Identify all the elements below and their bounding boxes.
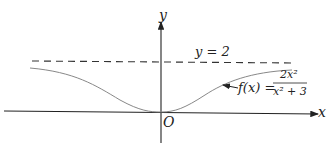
asymptote-label: y = 2 <box>195 45 230 58</box>
function-numerator: 2x² <box>280 69 298 80</box>
label-pointer-arrow <box>223 85 238 88</box>
y-axis-label: y <box>159 8 167 22</box>
function-lhs: f(x) = <box>238 81 275 94</box>
asymptote-line <box>32 61 296 63</box>
x-axis-label: x <box>318 105 326 119</box>
function-denominator: x² + 3 <box>273 86 307 97</box>
origin-label: O <box>163 115 174 129</box>
